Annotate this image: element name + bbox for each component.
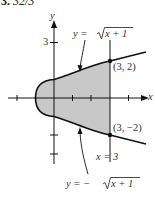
point-label-top: (3, 2): [113, 62, 136, 73]
upper-eq-radicand: x + 1: [105, 29, 127, 40]
upper-eq-lhs: y =: [73, 29, 87, 40]
y-tick-label-3: 3: [43, 37, 48, 48]
lower-label-pointer: [80, 132, 88, 174]
point-3-2: [108, 59, 112, 63]
lower-pointer-arrow-icon: [78, 127, 83, 134]
vline-label: x = 3: [96, 152, 118, 163]
upper-label-pointer: [80, 40, 85, 68]
lower-eq-lhs: y = −: [66, 179, 90, 190]
x-axis-label: x: [148, 92, 153, 103]
y-axis-label: y: [50, 11, 55, 22]
point-label-bottom: (3, −2): [113, 123, 142, 134]
point-3-neg2: [108, 133, 112, 137]
figure: 3. 32/3: [0, 0, 155, 197]
lower-eq-radicand: x + 1: [111, 179, 133, 190]
